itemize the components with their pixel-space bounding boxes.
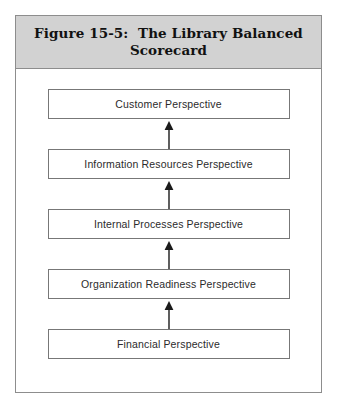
perspective-box-organization-readiness: Organization Readiness Perspective bbox=[48, 269, 290, 299]
perspective-box-information-resources: Information Resources Perspective bbox=[48, 149, 290, 179]
figure-frame: Figure 15-5: The Library Balanced Scorec… bbox=[15, 15, 322, 393]
perspective-label-customer: Customer Perspective bbox=[115, 98, 221, 110]
up-arrow-icon-organization-to-internal bbox=[162, 239, 176, 269]
figure-caption-line-2: Scorecard bbox=[130, 42, 207, 59]
up-arrow-icon-financial-to-organization bbox=[162, 299, 176, 329]
perspective-label-organization-readiness: Organization Readiness Perspective bbox=[81, 278, 256, 290]
up-arrow-icon-internal-to-information bbox=[162, 179, 176, 209]
perspective-label-information-resources: Information Resources Perspective bbox=[84, 158, 252, 170]
perspective-box-internal-processes: Internal Processes Perspective bbox=[48, 209, 290, 239]
figure-caption-band: Figure 15-5: The Library Balanced Scorec… bbox=[16, 16, 321, 69]
perspective-label-financial: Financial Perspective bbox=[117, 338, 220, 350]
up-arrow-icon-information-to-customer bbox=[162, 119, 176, 149]
perspective-chain: Customer Perspective Information Resourc… bbox=[16, 89, 321, 359]
perspective-label-internal-processes: Internal Processes Perspective bbox=[94, 218, 243, 230]
perspective-box-financial: Financial Perspective bbox=[48, 329, 290, 359]
diagram-body: Customer Perspective Information Resourc… bbox=[16, 69, 321, 392]
figure-caption-line-1: Figure 15-5: The Library Balanced bbox=[34, 25, 303, 42]
perspective-box-customer: Customer Perspective bbox=[48, 89, 290, 119]
